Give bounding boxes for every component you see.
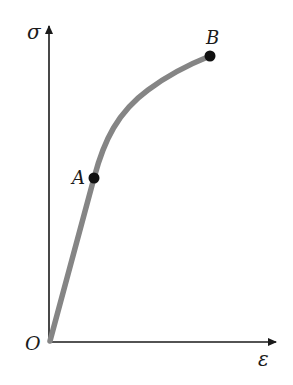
point-a (89, 173, 100, 184)
x-axis-label: ε (258, 347, 269, 371)
stress-strain-diagram: σ ε O A B (0, 0, 293, 385)
point-b (205, 51, 216, 62)
origin-label: O (25, 332, 41, 354)
stress-strain-curve (50, 56, 210, 341)
y-axis-label: σ (27, 20, 42, 44)
point-a-label: A (70, 167, 85, 188)
point-b-label: B (205, 27, 219, 48)
